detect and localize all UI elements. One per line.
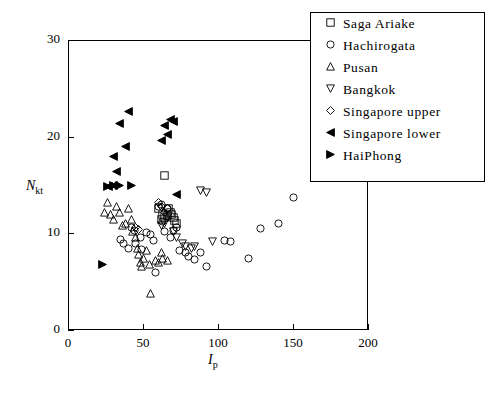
data-point xyxy=(112,167,121,176)
y-axis-title-sub: kt xyxy=(35,185,43,196)
legend-item-label: Pusan xyxy=(343,60,378,76)
x-axis-title-sub: p xyxy=(213,359,218,370)
legend-marker-icon xyxy=(323,39,343,53)
legend-marker-icon xyxy=(323,83,343,97)
legend-marker-icon xyxy=(323,61,343,75)
data-point xyxy=(190,242,199,251)
data-point xyxy=(146,289,155,298)
data-point xyxy=(151,268,160,277)
data-point xyxy=(115,181,124,190)
legend-item: Pusan xyxy=(311,57,484,79)
data-point xyxy=(202,262,211,271)
y-tick xyxy=(68,330,74,331)
x-tick xyxy=(68,324,69,330)
data-point xyxy=(160,171,169,180)
data-point xyxy=(134,225,143,234)
y-axis-title-main: N xyxy=(26,178,35,193)
legend-item: Hachirogata xyxy=(311,35,484,57)
legend: Saga AriakeHachirogataPusanBangkokSingap… xyxy=(310,12,485,182)
x-tick xyxy=(368,324,369,330)
data-point xyxy=(131,233,140,242)
data-point xyxy=(163,204,172,213)
data-point xyxy=(169,117,178,126)
legend-item-label: Hachirogata xyxy=(343,38,416,54)
legend-item-label: Singapore upper xyxy=(343,104,441,120)
x-tick-label: 0 xyxy=(48,335,88,351)
legend-item: Singapore upper xyxy=(311,101,484,123)
data-point xyxy=(109,215,118,224)
y-tick xyxy=(68,233,74,234)
y-tick-label: 20 xyxy=(26,128,60,144)
x-axis-title: Ip xyxy=(208,352,218,370)
scatter-chart: Nkt Ip 0102030050100150200 Saga AriakeHa… xyxy=(0,0,494,395)
y-axis-title: Nkt xyxy=(26,178,43,196)
data-point xyxy=(172,190,181,199)
data-point xyxy=(98,260,107,269)
data-point xyxy=(163,256,172,265)
legend-marker-icon xyxy=(323,149,343,163)
legend-marker-icon xyxy=(323,127,343,141)
x-tick-label: 150 xyxy=(273,335,313,351)
data-point xyxy=(142,246,151,255)
data-point xyxy=(127,181,136,190)
x-tick xyxy=(143,324,144,330)
y-tick-label: 30 xyxy=(26,31,60,47)
legend-marker-icon xyxy=(323,17,343,31)
data-point xyxy=(124,204,133,213)
data-point xyxy=(226,237,235,246)
x-tick-label: 200 xyxy=(348,335,388,351)
legend-item-label: Bangkok xyxy=(343,82,396,98)
data-point xyxy=(121,142,130,151)
data-point xyxy=(115,208,124,217)
data-point xyxy=(109,152,118,161)
data-point xyxy=(202,188,211,197)
data-point xyxy=(256,224,265,233)
data-point xyxy=(115,119,124,128)
x-tick-label: 50 xyxy=(123,335,163,351)
data-point xyxy=(208,237,217,246)
data-point xyxy=(163,130,172,139)
legend-item-label: HaiPhong xyxy=(343,148,402,164)
data-point xyxy=(274,219,283,228)
legend-item: Saga Ariake xyxy=(311,13,484,35)
y-tick xyxy=(68,137,74,138)
data-point xyxy=(103,198,112,207)
legend-marker-icon xyxy=(323,105,343,119)
data-point xyxy=(289,193,298,202)
data-point xyxy=(124,107,133,116)
data-point xyxy=(244,254,253,263)
x-tick xyxy=(218,324,219,330)
x-tick xyxy=(293,324,294,330)
legend-item: Singapore lower xyxy=(311,123,484,145)
y-tick xyxy=(68,40,74,41)
y-tick-label: 10 xyxy=(26,224,60,240)
data-point xyxy=(149,236,158,245)
legend-item: HaiPhong xyxy=(311,145,484,167)
legend-item-label: Singapore lower xyxy=(343,126,441,142)
legend-item-label: Saga Ariake xyxy=(343,16,415,32)
x-tick-label: 100 xyxy=(198,335,238,351)
legend-item: Bangkok xyxy=(311,79,484,101)
